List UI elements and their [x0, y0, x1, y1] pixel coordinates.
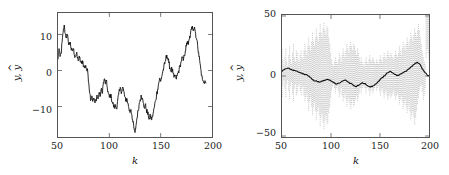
y-axis-title-right: y, ^y — [234, 50, 244, 96]
chart-panel-left: y, ^y 10 0 −10 — [0, 0, 224, 175]
plot-svg-left — [58, 13, 212, 137]
plot-svg-right — [282, 15, 429, 137]
y-tick-label-right-0: 50 — [244, 9, 276, 19]
x-tick-label-right-0: 50 — [267, 141, 295, 151]
x-tick-label-right-2: 150 — [366, 141, 394, 151]
x-tick-label-right-3: 200 — [416, 141, 444, 151]
y-tick-label-left-1: 0 — [20, 68, 52, 78]
y-axis-title-right-text: y, ^y — [233, 65, 244, 81]
oscillation-envelope-right — [282, 15, 429, 129]
tick-marks-left — [58, 13, 212, 137]
y-hat-mark-right: ^ — [229, 64, 239, 72]
chart-panel-right: y, ^y 50 0 −50 — [224, 0, 449, 175]
plot-area-left — [57, 12, 213, 138]
x-tick-label-left-2: 150 — [147, 141, 175, 151]
x-tick-label-left-1: 100 — [95, 141, 123, 151]
plot-area-right — [281, 14, 430, 138]
x-tick-label-left-3: 200 — [199, 141, 227, 151]
y-tick-label-left-0: 10 — [20, 32, 52, 42]
y-tick-label-right-1: 0 — [244, 70, 276, 80]
y-tick-label-left-2: −10 — [14, 105, 52, 115]
x-tick-label-right-1: 100 — [317, 141, 345, 151]
y-tick-label-right-2: −50 — [238, 128, 276, 138]
x-axis-title-left: k — [121, 156, 149, 166]
y-hat-mark-left: ^ — [7, 64, 17, 72]
data-trace-left — [58, 25, 206, 133]
x-tick-label-left-0: 50 — [43, 141, 71, 151]
figure-container: y, ^y 10 0 −10 — [0, 0, 449, 175]
x-axis-title-right: k — [342, 156, 370, 166]
